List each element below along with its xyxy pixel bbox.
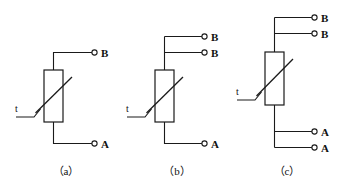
- terminal-a2-c[interactable]: [312, 145, 317, 150]
- terminal-b1-label-b: B: [211, 31, 219, 43]
- caption-a: （a）: [53, 165, 80, 177]
- lead-wire-bottom-a: [54, 122, 93, 144]
- terminal-b2-label-b: B: [211, 47, 219, 59]
- terminal-b1-a[interactable]: [92, 50, 97, 55]
- terminal-b1-b[interactable]: [202, 34, 207, 39]
- caption-c: （c）: [274, 165, 301, 177]
- terminal-a1-c[interactable]: [312, 129, 317, 134]
- terminal-a1-b[interactable]: [202, 141, 207, 146]
- t-leader-line-c: [237, 92, 262, 100]
- terminal-a1-label-a: A: [101, 138, 109, 150]
- caption-b: （b）: [163, 165, 191, 177]
- terminal-b2-b[interactable]: [202, 50, 207, 55]
- thermistor-t-label-a: t: [15, 103, 18, 114]
- lead-wire-bottom-b: [165, 122, 203, 144]
- thermistor-t-label-b: t: [126, 103, 129, 114]
- terminal-a1-a[interactable]: [92, 141, 97, 146]
- terminal-a1-label-c: A: [321, 126, 329, 138]
- thermistor-t-label-c: t: [236, 86, 239, 97]
- terminal-b2-c[interactable]: [312, 31, 317, 36]
- t-leader-line-a: [16, 109, 41, 117]
- diagram-b: B B A t （b）: [126, 31, 219, 178]
- terminal-b1-label-c: B: [321, 12, 329, 24]
- figure-canvas: B A t （a） B: [0, 0, 339, 191]
- terminal-b1-label-a: B: [101, 47, 109, 59]
- diagram-a: B A t （a）: [15, 47, 109, 178]
- t-leader-line-b: [127, 109, 152, 117]
- terminal-b1-c[interactable]: [312, 15, 317, 20]
- terminal-a1-label-b: A: [211, 138, 219, 150]
- terminal-b2-label-c: B: [321, 28, 329, 40]
- terminal-a2-label-c: A: [321, 142, 329, 154]
- diagram-c: B B A A t （c）: [236, 12, 329, 178]
- lead-wire-top-a: [54, 53, 93, 71]
